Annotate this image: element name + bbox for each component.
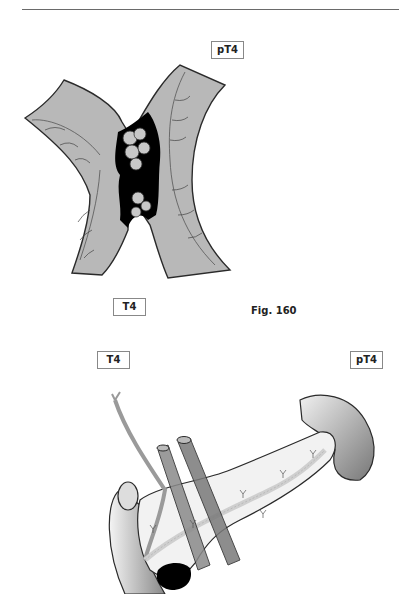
colon-tumor-illustration (20, 60, 240, 280)
label-pt4-top: pT4 (211, 41, 244, 59)
pancreas-illustration (90, 390, 390, 594)
label-t4-bottom: T4 (97, 351, 130, 369)
label-pt4-bottom: pT4 (350, 351, 383, 369)
label-t4-top: T4 (113, 298, 146, 316)
figure-caption: Fig. 160 (251, 305, 297, 316)
header-rule (22, 9, 399, 10)
